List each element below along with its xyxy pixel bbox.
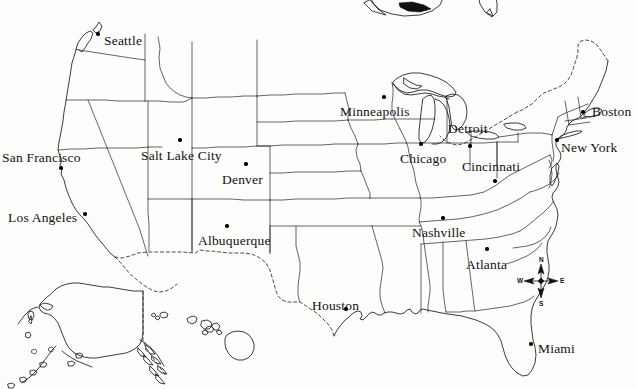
city-label[interactable]: Atlanta [466,258,507,272]
city-dot[interactable] [178,138,181,141]
city-label[interactable]: Cincinnati [462,160,520,174]
city-label[interactable]: Albuquerque [198,234,271,248]
city-label[interactable]: Seattle [104,34,142,48]
compass-north-label: N [539,257,544,264]
city-dot[interactable] [441,216,444,219]
city-dot[interactable] [244,162,247,165]
city-label[interactable]: Boston [592,105,631,119]
city-label[interactable]: Detroit [448,122,488,136]
city-label[interactable]: Denver [222,173,263,187]
city-label[interactable]: Miami [538,342,575,356]
city-label-layer: SeattleSan FranciscoLos AngelesSalt Lake… [0,0,636,389]
city-label[interactable]: Chicago [400,152,446,166]
city-dot[interactable] [493,179,496,182]
city-label[interactable]: New York [561,141,617,155]
compass-south-label: S [539,301,543,308]
city-dot[interactable] [468,144,471,147]
city-dot[interactable] [96,32,99,35]
city-label[interactable]: San Francisco [2,151,81,165]
city-dot[interactable] [581,110,584,113]
city-dot[interactable] [529,342,532,345]
city-dot[interactable] [83,212,86,215]
city-dot[interactable] [382,95,385,98]
city-label[interactable]: Houston [312,299,359,313]
city-dot[interactable] [419,142,422,145]
compass-east-label: E [560,278,564,285]
compass-west-label: W [517,278,523,285]
city-label[interactable]: Los Angeles [8,211,77,225]
us-cities-map: SeattleSan FranciscoLos AngelesSalt Lake… [0,0,636,389]
city-dot[interactable] [59,166,62,169]
city-label[interactable]: Minneapolis [340,105,410,119]
city-label[interactable]: Nashville [412,226,466,240]
city-dot[interactable] [225,224,228,227]
city-label[interactable]: Salt Lake City [141,149,222,163]
city-dot[interactable] [555,138,558,141]
city-dot[interactable] [485,247,488,250]
